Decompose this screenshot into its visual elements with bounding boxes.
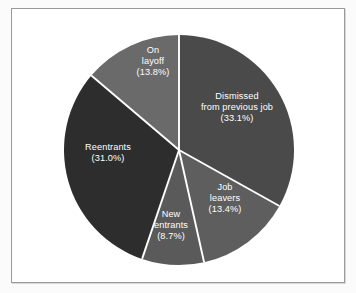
- figure-root: Dismissedfrom previous job(33.1%)Jobleav…: [0, 0, 356, 293]
- pie-slice-label-line: (31.0%): [92, 153, 125, 163]
- pie-slice-label-reentrants: Reentrants(31.0%): [85, 142, 131, 163]
- pie-slice-label-line: (8.7%): [157, 231, 185, 241]
- pie-slice-label-line: layoff: [142, 56, 165, 66]
- pie-slice-label-line: (13.4%): [209, 204, 242, 214]
- pie-chart-svg: Dismissedfrom previous job(33.1%)Jobleav…: [0, 0, 356, 293]
- pie-slice-label-line: New: [162, 209, 181, 219]
- pie-slice-label-line: (13.8%): [137, 67, 170, 77]
- pie-slice-label-line: Reentrants: [85, 142, 131, 152]
- pie-slice-label-line: Job: [217, 182, 232, 192]
- pie-chart: Dismissedfrom previous job(33.1%)Jobleav…: [0, 0, 356, 293]
- pie-slice-label-line: leavers: [210, 193, 241, 203]
- pie-slice-label-line: from previous job: [201, 102, 273, 112]
- pie-slice-label-line: (33.1%): [221, 113, 254, 123]
- pie-slice-label-line: On: [147, 45, 159, 55]
- pie-slice-label-line: entrants: [154, 220, 188, 230]
- pie-slice-label-line: Dismissed: [215, 91, 258, 101]
